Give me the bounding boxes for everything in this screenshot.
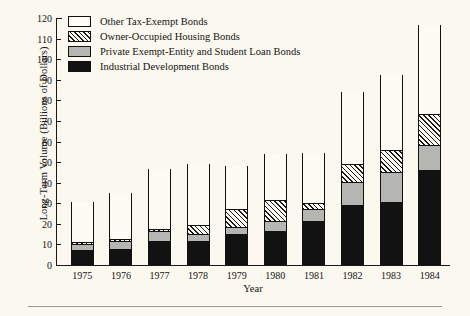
x-axis-tick-label: 1978 bbox=[179, 270, 218, 281]
x-axis-tick-label: 1977 bbox=[140, 270, 179, 281]
bar-segment bbox=[149, 242, 170, 265]
bar-1975 bbox=[71, 202, 94, 265]
bar-1976 bbox=[109, 193, 132, 265]
x-axis-tick-label: 1984 bbox=[410, 270, 449, 281]
bar-segment bbox=[419, 171, 440, 265]
bar-1983 bbox=[380, 75, 403, 265]
figure-stacked-bar-chart: Long-Term Volume (Billions of Dollars) 0… bbox=[0, 0, 470, 316]
bar-segment bbox=[265, 154, 286, 200]
bar-segment bbox=[419, 114, 440, 146]
bar-segment bbox=[188, 164, 209, 225]
bar-segment bbox=[188, 225, 209, 235]
x-axis-tick-label: 1975 bbox=[63, 270, 102, 281]
y-axis-tick-label: 120 bbox=[37, 13, 52, 24]
bar-segment bbox=[188, 242, 209, 265]
bar-segment bbox=[419, 25, 440, 114]
legend-entry: Other Tax-Exempt Bonds bbox=[68, 14, 300, 29]
bar-1979 bbox=[225, 166, 248, 265]
y-axis-tick-label: 80 bbox=[42, 95, 52, 106]
y-axis-tick-label: 90 bbox=[42, 74, 52, 85]
gray-swatch bbox=[68, 46, 91, 57]
x-axis-title: Year bbox=[56, 283, 450, 294]
y-axis-tick-label: 70 bbox=[42, 115, 52, 126]
y-axis-tick-label: 20 bbox=[42, 218, 52, 229]
x-axis-tick-label: 1982 bbox=[333, 270, 372, 281]
y-axis-tick-mark bbox=[56, 59, 61, 60]
y-axis-tick-mark bbox=[56, 244, 61, 245]
bar-segment bbox=[303, 153, 324, 203]
bar-segment bbox=[303, 203, 324, 210]
bar-segment bbox=[381, 150, 402, 174]
y-axis-tick-label: 10 bbox=[42, 239, 52, 250]
y-axis-tick-mark bbox=[56, 224, 61, 225]
bar-segment bbox=[226, 209, 247, 228]
bar-1980 bbox=[264, 154, 287, 265]
bar-segment bbox=[110, 239, 131, 242]
diagonal-hatch-swatch bbox=[68, 31, 91, 42]
legend-entry: Industrial Development Bonds bbox=[68, 59, 300, 74]
bar-segment bbox=[110, 250, 131, 265]
legend: Other Tax-Exempt BondsOwner-Occupied Hou… bbox=[68, 14, 300, 74]
y-axis-tick-mark bbox=[56, 203, 61, 204]
bar-segment bbox=[149, 169, 170, 229]
bar-segment bbox=[381, 173, 402, 203]
bar-segment bbox=[226, 228, 247, 235]
y-axis-tick-mark bbox=[56, 39, 61, 40]
bar-segment bbox=[265, 222, 286, 232]
bar-segment bbox=[110, 242, 131, 249]
bar-segment bbox=[72, 251, 93, 265]
bar-segment bbox=[72, 202, 93, 242]
legend-label: Industrial Development Bonds bbox=[100, 61, 229, 72]
legend-label: Private Exempt-Entity and Student Loan B… bbox=[100, 46, 300, 57]
y-axis-tick-label: 50 bbox=[42, 157, 52, 168]
y-axis-tick-label: 100 bbox=[37, 54, 52, 65]
y-axis-tick-mark bbox=[56, 18, 61, 19]
bar-segment bbox=[149, 229, 170, 232]
y-axis-tick-mark bbox=[56, 121, 61, 122]
bar-1978 bbox=[187, 164, 210, 265]
x-axis-tick-label: 1981 bbox=[295, 270, 334, 281]
bar-1981 bbox=[302, 153, 325, 265]
y-axis-tick-label: 30 bbox=[42, 198, 52, 209]
y-axis-tick-mark bbox=[56, 142, 61, 143]
bar-segment bbox=[303, 222, 324, 265]
legend-label: Owner-Occupied Housing Bonds bbox=[100, 31, 240, 42]
bar-segment bbox=[381, 203, 402, 265]
x-axis-tick-label: 1980 bbox=[256, 270, 295, 281]
x-axis-tick-label: 1979 bbox=[217, 270, 256, 281]
bar-segment bbox=[72, 245, 93, 250]
bar-segment bbox=[149, 232, 170, 242]
bar-segment bbox=[342, 183, 363, 207]
y-axis-tick-mark bbox=[56, 183, 61, 184]
bar-segment bbox=[265, 232, 286, 265]
black-swatch bbox=[68, 61, 91, 72]
bar-segment bbox=[342, 92, 363, 164]
legend-label: Other Tax-Exempt Bonds bbox=[100, 16, 208, 27]
bar-segment bbox=[110, 193, 131, 239]
x-axis-tick-label: 1976 bbox=[102, 270, 141, 281]
y-axis-tick-mark bbox=[56, 162, 61, 163]
bar-segment bbox=[381, 75, 402, 150]
bar-segment bbox=[226, 166, 247, 209]
bar-segment bbox=[188, 235, 209, 242]
bar-segment bbox=[342, 206, 363, 265]
bar-segment bbox=[226, 235, 247, 265]
horizontal-rule bbox=[28, 306, 442, 307]
bar-segment bbox=[72, 242, 93, 245]
bar-segment bbox=[342, 164, 363, 183]
y-axis-tick-mark bbox=[56, 265, 61, 266]
bar-segment bbox=[265, 200, 286, 222]
y-axis-tick-mark bbox=[56, 100, 61, 101]
y-axis-tick-label: 0 bbox=[47, 260, 52, 271]
bar-segment bbox=[303, 210, 324, 221]
x-axis-tick-label: 1983 bbox=[372, 270, 411, 281]
y-axis-tick-mark bbox=[56, 80, 61, 81]
y-axis-tick-label: 40 bbox=[42, 177, 52, 188]
y-axis-tick-label: 60 bbox=[42, 136, 52, 147]
legend-entry: Owner-Occupied Housing Bonds bbox=[68, 29, 300, 44]
bar-1984 bbox=[418, 25, 441, 265]
bar-1977 bbox=[148, 169, 171, 265]
bar-1982 bbox=[341, 92, 364, 265]
y-axis-tick-label: 110 bbox=[37, 33, 52, 44]
open-white-swatch bbox=[68, 16, 91, 27]
